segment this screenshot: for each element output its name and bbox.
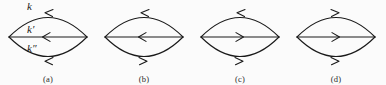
feynman-diagram-figure: k k′ k″ (a) (b) <box>0 0 386 85</box>
lower-arrow-c <box>235 58 243 65</box>
diagram-b-graphic <box>96 0 192 85</box>
upper-arc-d <box>297 18 375 38</box>
diagram-c-graphic <box>192 0 288 85</box>
momentum-label-k-double-prime: k″ <box>27 43 36 54</box>
diagram-caption-b: (b) <box>96 74 192 84</box>
lower-arc-c <box>201 37 279 57</box>
upper-arc-c <box>201 18 279 38</box>
lower-arc-d <box>297 37 375 57</box>
lower-arrow-b <box>139 58 147 65</box>
momentum-label-k-prime: k′ <box>27 24 34 35</box>
diagram-caption-d: (d) <box>288 74 384 84</box>
diagram-a: k k′ k″ (a) <box>0 0 96 85</box>
lower-arrow-a <box>45 58 53 65</box>
diagram-caption-a: (a) <box>0 74 96 84</box>
diagram-caption-c: (c) <box>192 74 288 84</box>
diagram-b: (b) <box>96 0 192 85</box>
upper-arrow-a <box>45 10 53 17</box>
upper-arrow-b <box>141 10 149 17</box>
diagram-d: (d) <box>288 0 384 85</box>
diagram-a-graphic <box>0 0 96 85</box>
diagram-d-graphic <box>288 0 384 85</box>
diagram-c: (c) <box>192 0 288 85</box>
momentum-label-k: k <box>27 1 32 12</box>
lower-arrow-d <box>331 58 339 65</box>
upper-arrow-d <box>331 10 339 17</box>
upper-arrow-c <box>237 10 245 17</box>
